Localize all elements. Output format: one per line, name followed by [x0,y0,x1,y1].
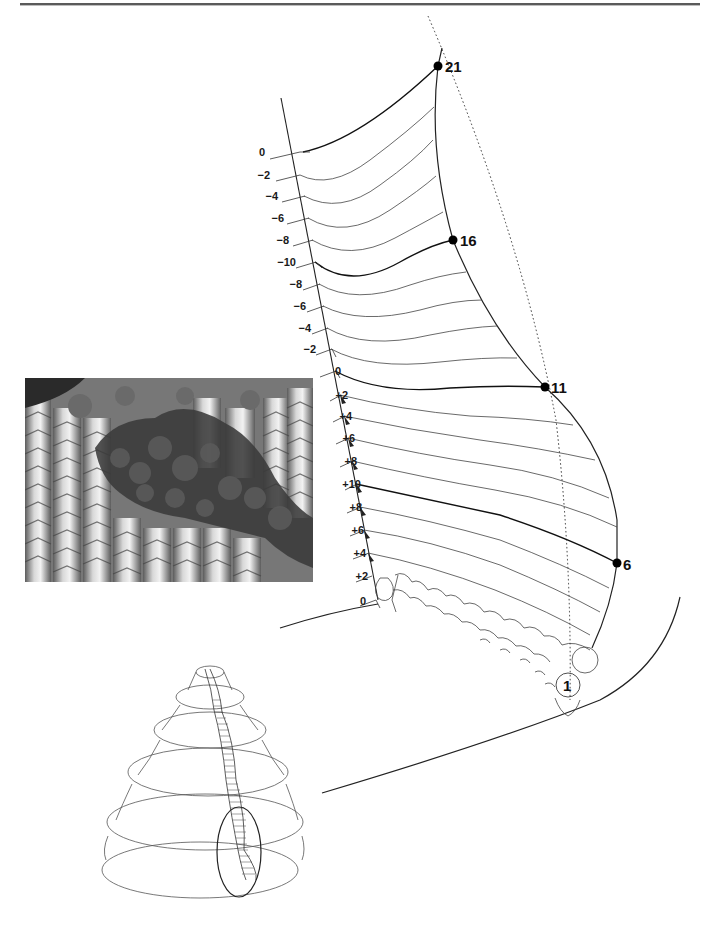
right-growth-curve [435,48,617,648]
axis-label: −8 [276,234,289,246]
cone-illustration [102,666,304,898]
growth-point-1: 1 [563,677,571,694]
axis-label: −2 [303,343,316,355]
axis-label: −6 [293,300,306,312]
point-marker-icon [613,559,622,568]
axis-label: +6 [342,432,355,444]
growth-point-6: 6 [613,556,632,573]
beaded-ridge [375,574,598,716]
point-marker-icon [449,236,458,245]
axis-label: 0 [360,595,366,607]
axis-label: 0 [259,146,265,158]
axis-label: −4 [298,322,311,334]
point-label: 1 [563,677,571,694]
axis-label: −10 [277,256,296,268]
outer-base-arc [322,597,680,793]
growth-lines [300,66,617,635]
point-marker-icon [434,62,443,71]
point-label: 11 [551,379,567,396]
left-axis-labels: 0 −2 −4 −6 −8 −10 −8 −6 −4 −2 0 +2 +4 +6… [257,146,368,607]
axis-label: +4 [353,547,366,559]
axis-label: −2 [257,169,270,181]
tick-leader-lines [270,152,380,608]
point-label: 16 [460,232,477,249]
axis-label: +6 [351,524,364,536]
inner-base-arc [280,604,378,628]
axis-label: −6 [271,212,284,224]
point-marker-icon [541,383,550,392]
axis-label: +8 [349,501,362,513]
axis-label: −4 [265,190,278,202]
axis-label: −8 [289,278,302,290]
axis-label: +2 [355,570,368,582]
point-label: 6 [623,556,631,573]
growth-point-11: 11 [541,379,567,396]
highlight-ellipse [217,807,261,897]
growth-point-16: 16 [449,232,477,249]
cone-hatching [213,700,255,874]
axis-label: 0 [335,365,341,377]
growth-diagram: 0 −2 −4 −6 −8 −10 −8 −6 −4 −2 0 +2 +4 +6… [0,0,714,927]
point-label: 21 [445,58,462,75]
